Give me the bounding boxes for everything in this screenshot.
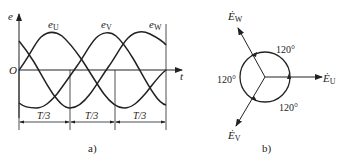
caption-b: b) <box>262 142 272 155</box>
waveform-figure: e t O eU eV eW T/3 T/3 T/3 a) <box>8 10 184 155</box>
label-E-v: ĖV <box>227 129 241 143</box>
label-E-w: ĖW <box>227 10 243 24</box>
y-axis-label: e <box>8 10 13 22</box>
origin-label: O <box>9 64 17 76</box>
label-e-w: eW <box>149 18 162 32</box>
phasor-figure: ĖU ĖW ĖV 120° 120° 120° b) <box>217 10 336 155</box>
figure-canvas: e t O eU eV eW T/3 T/3 T/3 a) <box>0 0 341 160</box>
x-axis-label: t <box>180 70 184 82</box>
label-e-v: eV <box>101 18 112 32</box>
interval-label-3: T/3 <box>133 110 146 121</box>
angle-label-top: 120° <box>276 44 295 55</box>
interval-label-1: T/3 <box>37 110 50 121</box>
label-e-u: eU <box>48 18 59 32</box>
angle-label-bottom: 120° <box>279 102 298 113</box>
angle-label-left: 120° <box>217 74 236 85</box>
label-E-u: ĖU <box>322 72 336 86</box>
caption-a: a) <box>88 142 97 155</box>
interval-label-2: T/3 <box>85 110 98 121</box>
